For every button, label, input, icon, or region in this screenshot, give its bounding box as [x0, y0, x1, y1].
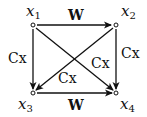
edge-label-bottom: W	[67, 97, 84, 113]
edge-label-diag-x1-x4: Cx	[91, 55, 110, 71]
node-x4	[114, 91, 118, 95]
node-x2	[114, 23, 118, 27]
edge-label-diag-x2-x3: Cx	[58, 70, 77, 86]
edge-label-left: Cx	[8, 50, 27, 66]
edge-label-top: W	[67, 7, 84, 23]
commutative-diagram: x1 x2 x3 x4 W W Cx Cx Cx Cx	[0, 0, 147, 117]
edge-label-right: Cx	[121, 45, 140, 61]
node-x3	[31, 91, 35, 95]
label-x2: x2	[121, 2, 136, 21]
label-x3: x3	[18, 95, 33, 114]
label-x4: x4	[120, 95, 135, 114]
node-x1	[31, 23, 35, 27]
label-x1: x1	[26, 2, 41, 21]
